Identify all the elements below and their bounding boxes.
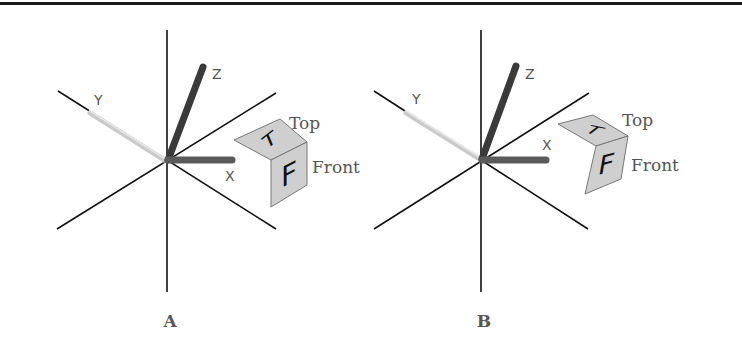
panel-a: Y Z X T F Top Front A: [57, 30, 360, 331]
panel-b: Y Z X T F Top Front B: [374, 30, 679, 331]
orientation-figure: Y Z X T F Top Front A: [0, 0, 742, 355]
cube-front-label-b: Front: [631, 155, 679, 175]
x-axis-label-a: X: [225, 168, 235, 184]
cube-top-label-b: Top: [622, 110, 653, 130]
panel-label-b: B: [477, 311, 491, 331]
cube-top-label-a: Top: [289, 113, 320, 133]
cube-front-label-a: Front: [312, 157, 360, 177]
x-axis-label-b: X: [542, 137, 552, 153]
z-axis-rod-a: [168, 67, 203, 160]
z-axis-label-a: Z: [212, 66, 222, 82]
y-axis-label-a: Y: [93, 92, 103, 108]
y-axis-rod-b: [406, 113, 478, 158]
y-axis-label-b: Y: [411, 91, 421, 107]
y-axis-rod-a: [90, 113, 164, 160]
z-axis-rod-b: [482, 66, 516, 159]
orientation-cube-b: T F: [558, 115, 628, 194]
figure-canvas: Y Z X T F Top Front A: [0, 0, 742, 355]
panel-label-a: A: [162, 311, 177, 331]
z-axis-label-b: Z: [525, 66, 535, 82]
